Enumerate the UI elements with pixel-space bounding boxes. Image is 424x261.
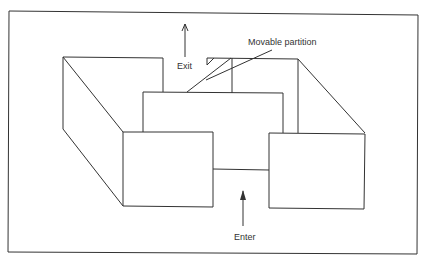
exit-arrow-icon <box>182 24 188 57</box>
movable-partition <box>187 58 231 92</box>
movable-partition-label: Movable partition <box>248 37 317 47</box>
enter-label: Enter <box>234 232 256 242</box>
partition-pointer <box>206 50 272 80</box>
maze-diagram <box>0 0 424 261</box>
passage-line <box>213 169 269 170</box>
exit-label: Exit <box>177 61 192 71</box>
front-right-panel <box>269 133 365 209</box>
front-left-panel <box>123 132 213 207</box>
enter-arrow-icon <box>240 190 246 226</box>
middle-panel <box>143 92 283 133</box>
